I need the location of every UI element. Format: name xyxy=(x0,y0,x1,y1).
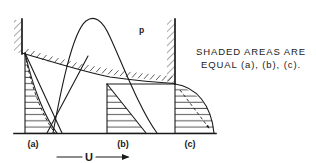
region-label-a: (a) xyxy=(28,139,39,149)
flow-direction-label: U xyxy=(85,151,93,163)
boundary-layer-diagram: p xyxy=(0,0,316,163)
figure-background xyxy=(0,0,316,163)
caption-line-1: SHADED AREAS ARE xyxy=(196,46,306,57)
figure-root: p xyxy=(0,0,316,163)
region-label-b: (b) xyxy=(117,139,129,149)
region-label-c: (c) xyxy=(185,139,196,149)
pressure-curve-label: p xyxy=(139,25,144,35)
caption-line-2: EQUAL (a), (b), (c). xyxy=(201,59,301,70)
